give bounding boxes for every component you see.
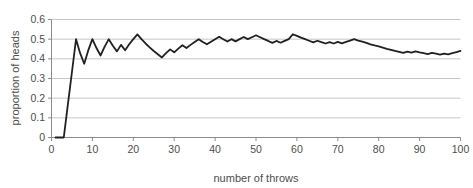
y-axis-title: proportion of heads <box>9 30 21 125</box>
x-tick-label: 30 <box>168 143 180 155</box>
x-tick-label: 60 <box>291 143 303 155</box>
chart-svg: 00.10.20.30.40.50.6 01020304050607080901… <box>0 0 473 188</box>
x-axis <box>52 138 461 142</box>
x-axis-title: number of throws <box>214 172 299 184</box>
x-tick-label: 70 <box>332 143 344 155</box>
x-tick-label: 40 <box>209 143 221 155</box>
y-tick-label: 0 <box>39 131 45 143</box>
x-tick-label: 20 <box>127 143 139 155</box>
x-tick-label: 10 <box>87 143 99 155</box>
x-tick-labels: 0102030405060708090100 <box>49 143 470 155</box>
proportion-of-heads-chart: 00.10.20.30.40.50.6 01020304050607080901… <box>0 0 473 188</box>
y-axis <box>48 20 52 138</box>
data-line <box>56 34 461 137</box>
y-tick-label: 0.4 <box>30 52 45 64</box>
x-tick-label: 50 <box>250 143 262 155</box>
series-line <box>56 34 461 137</box>
y-tick-label: 0.1 <box>30 111 45 123</box>
y-tick-labels: 00.10.20.30.40.50.6 <box>30 13 45 143</box>
y-tick-label: 0.2 <box>30 92 45 104</box>
y-tick-label: 0.6 <box>30 13 45 25</box>
y-tick-label: 0.3 <box>30 72 45 84</box>
x-tick-label: 80 <box>373 143 385 155</box>
x-tick-label: 0 <box>49 143 55 155</box>
y-tick-label: 0.5 <box>30 33 45 45</box>
gridlines <box>52 20 461 118</box>
x-tick-label: 90 <box>414 143 426 155</box>
x-tick-label: 100 <box>452 143 470 155</box>
